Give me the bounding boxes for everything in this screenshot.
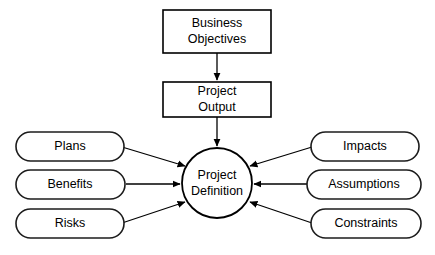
benefits-label: Benefits (47, 177, 92, 191)
node-assumptions[interactable]: Assumptions (307, 170, 421, 199)
project-output-label-line2: Output (198, 100, 236, 114)
node-impacts[interactable]: Impacts (311, 132, 419, 161)
node-business-objectives[interactable]: Business Objectives (163, 10, 271, 53)
connector-risks-to-project-definition (122, 202, 185, 223)
risks-label: Risks (55, 216, 86, 230)
node-benefits[interactable]: Benefits (16, 170, 125, 199)
business-objectives-label-line2: Objectives (188, 32, 246, 46)
node-plans[interactable]: Plans (16, 132, 124, 161)
node-constraints[interactable]: Constraints (311, 209, 421, 238)
connector-plans-to-project-definition (122, 147, 185, 166)
connector-constraints-to-project-definition (250, 202, 312, 223)
impacts-label: Impacts (343, 139, 387, 153)
project-definition-label-line1: Project (198, 168, 237, 182)
connector-impacts-to-project-definition (250, 147, 312, 166)
business-objectives-label-line1: Business (192, 16, 243, 30)
node-project-definition[interactable]: Project Definition (182, 148, 252, 218)
project-output-label-line1: Project (198, 84, 237, 98)
constraints-label: Constraints (334, 216, 397, 230)
node-risks[interactable]: Risks (16, 209, 124, 238)
node-project-output[interactable]: Project Output (163, 82, 271, 117)
diagram-canvas: Business Objectives Project Output Proje… (0, 0, 435, 255)
assumptions-label: Assumptions (328, 177, 400, 191)
plans-label: Plans (54, 139, 85, 153)
project-definition-circle[interactable] (182, 148, 252, 218)
project-definition-label-line2: Definition (191, 184, 243, 198)
